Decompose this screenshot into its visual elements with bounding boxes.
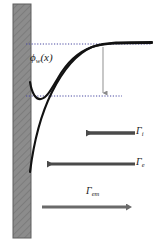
emission-flux-label: Γem (86, 186, 99, 198)
wall (13, 4, 31, 238)
ion-flux-label-subscript: i (142, 130, 144, 137)
potential-label: ϕw(x) (30, 52, 53, 65)
plasma-sheath-figure: ϕw(x) Γi Γe Γem (0, 0, 156, 242)
electron-flux-label-subscript: e (142, 161, 145, 168)
emission-flux-label-subscript: em (92, 190, 100, 197)
ion-flux-label: Γi (136, 126, 144, 138)
electron-flux-label: Γe (136, 157, 145, 169)
figure-canvas (0, 0, 156, 242)
potential-label-argument: (x) (40, 51, 52, 63)
